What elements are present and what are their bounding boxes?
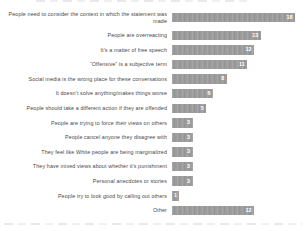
bar: 11 — [172, 60, 247, 70]
bar-track: 5 — [172, 101, 308, 116]
bar: 3 — [172, 176, 193, 186]
category-label: People cancel anyone they disagree with — [0, 134, 167, 141]
bar-chart-screenshot: People need to consider the context in w… — [0, 0, 308, 231]
chart-row: People cancel anyone they disagree with3 — [0, 130, 308, 145]
value-label: 3 — [187, 135, 190, 140]
value-label: 12 — [246, 208, 252, 213]
chart-row: It’s a matter of free speech12 — [0, 43, 308, 58]
category-label: “Offensive” is a subjective term — [0, 61, 167, 68]
chart-row: Social media is the wrong place for thes… — [0, 72, 308, 87]
bar: 18 — [172, 13, 295, 23]
chart-row: People are trying to force their views o… — [0, 116, 308, 131]
bar-track: 1 — [172, 189, 308, 204]
bar-track: 11 — [172, 57, 308, 72]
value-label: 18 — [287, 15, 293, 20]
category-label: Social media is the wrong place for thes… — [0, 76, 167, 83]
bar: 13 — [172, 31, 261, 41]
bar: 12 — [172, 45, 254, 55]
value-label: 3 — [187, 164, 190, 169]
chart-row: People should take a different action if… — [0, 101, 308, 116]
value-label: 3 — [187, 149, 190, 154]
chart-row: Other12 — [0, 203, 308, 218]
chart-row: They have mixed views about whether it’s… — [0, 159, 308, 174]
category-label: People are overreacting — [0, 32, 167, 39]
value-label: 3 — [187, 120, 190, 125]
category-label: Other — [0, 207, 167, 214]
cropped-text-bottom — [4, 223, 302, 225]
chart-row: It doesn’t solve anything/makes things w… — [0, 86, 308, 101]
bar-track: 12 — [172, 43, 308, 58]
bar-track: 8 — [172, 72, 308, 87]
bar-track: 12 — [172, 203, 308, 218]
category-label: They have mixed views about whether it’s… — [0, 163, 167, 170]
category-label: Personal anecdotes or stories — [0, 178, 167, 185]
value-label: 8 — [221, 76, 224, 81]
chart-row: Personal anecdotes or stories3 — [0, 174, 308, 189]
bar-track: 3 — [172, 174, 308, 189]
bar: 1 — [172, 191, 179, 201]
bar: 3 — [172, 118, 193, 128]
category-label: People are trying to force their views o… — [0, 120, 167, 127]
bar-track: 6 — [172, 86, 308, 101]
bar: 3 — [172, 162, 193, 172]
value-label: 5 — [201, 106, 204, 111]
bar-track: 3 — [172, 116, 308, 131]
bar-track: 3 — [172, 130, 308, 145]
value-label: 6 — [208, 91, 211, 96]
bar-track: 18 — [172, 7, 308, 28]
category-label: It’s a matter of free speech — [0, 47, 167, 54]
chart-row: People try to look good by calling out o… — [0, 189, 308, 204]
bar-track: 3 — [172, 159, 308, 174]
value-label: 12 — [246, 47, 252, 52]
value-label: 11 — [239, 62, 245, 67]
category-label: People should take a different action if… — [0, 105, 167, 112]
bar: 8 — [172, 74, 227, 84]
cropped-text-top — [36, 0, 252, 2]
bar-chart: People need to consider the context in w… — [0, 7, 308, 218]
chart-row: They feel like White people are being ma… — [0, 145, 308, 160]
chart-row: People are overreacting13 — [0, 28, 308, 43]
bar: 5 — [172, 104, 206, 114]
value-label: 3 — [187, 179, 190, 184]
bar: 12 — [172, 206, 254, 216]
bar: 6 — [172, 89, 213, 99]
value-label: 13 — [252, 33, 258, 38]
category-label: People try to look good by calling out o… — [0, 193, 167, 200]
bar: 3 — [172, 147, 193, 157]
category-label: They feel like White people are being ma… — [0, 149, 167, 156]
value-label: 1 — [174, 193, 177, 198]
bar: 3 — [172, 133, 193, 143]
category-label: People need to consider the context in w… — [0, 11, 167, 24]
bar-track: 13 — [172, 28, 308, 43]
bar-track: 3 — [172, 145, 308, 160]
chart-row: “Offensive” is a subjective term11 — [0, 57, 308, 72]
chart-row: People need to consider the context in w… — [0, 7, 308, 28]
category-label: It doesn’t solve anything/makes things w… — [0, 90, 167, 97]
